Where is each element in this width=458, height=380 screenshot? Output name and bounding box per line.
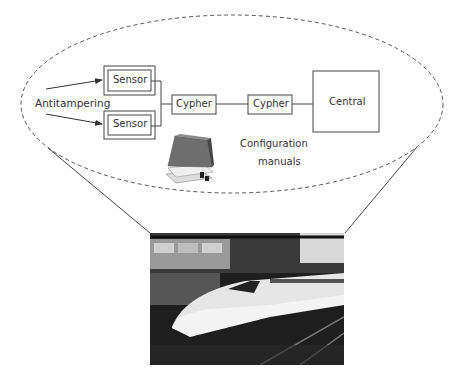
central-label: Central: [329, 96, 365, 107]
cypher-2-label: Cypher: [253, 98, 289, 109]
bullet-train-photo: [150, 233, 344, 365]
arrow-to-sensor-bottom: [46, 114, 102, 124]
book-stack-icon: [166, 134, 214, 183]
cypher-1-label: Cypher: [176, 98, 212, 109]
config-label-line2: manuals: [258, 156, 301, 167]
zoom-connector-right: [345, 147, 417, 233]
sensor-bottom-label: Sensor: [113, 118, 147, 129]
sensor-top-label: Sensor: [113, 74, 147, 85]
arrow-to-sensor-top: [46, 80, 102, 89]
config-label-line1: Configuration: [240, 138, 308, 149]
zoom-connector-left: [48, 148, 150, 233]
antitampering-label: Antitampering: [35, 97, 110, 109]
